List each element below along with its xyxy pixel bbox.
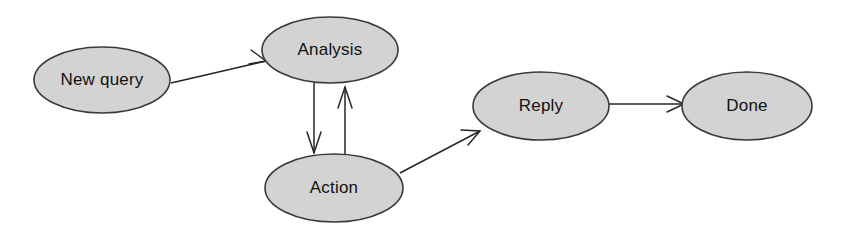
edge-reply-to-done bbox=[609, 96, 684, 112]
node-action-label: Action bbox=[310, 178, 358, 197]
node-new-query-label: New query bbox=[60, 70, 143, 89]
node-reply[interactable]: Reply bbox=[473, 72, 609, 140]
state-diagram: New query Analysis Action Reply Done bbox=[0, 0, 845, 234]
node-done-label: Done bbox=[726, 96, 767, 115]
edge-action-to-reply bbox=[400, 130, 480, 173]
node-done[interactable]: Done bbox=[682, 72, 812, 140]
node-reply-label: Reply bbox=[519, 96, 564, 115]
node-analysis[interactable]: Analysis bbox=[262, 17, 398, 83]
edge-analysis-to-action bbox=[307, 83, 321, 153]
node-action[interactable]: Action bbox=[265, 154, 403, 222]
node-new-query[interactable]: New query bbox=[34, 47, 170, 113]
edge-new-query-to-analysis bbox=[171, 50, 266, 83]
diagram-canvas: New query Analysis Action Reply Done bbox=[0, 0, 845, 234]
edge-action-to-analysis bbox=[338, 87, 352, 156]
node-analysis-label: Analysis bbox=[298, 40, 363, 59]
